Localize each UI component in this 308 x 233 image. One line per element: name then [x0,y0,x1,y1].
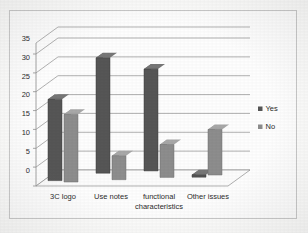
x-category-label-use-notes: Use notes [94,192,128,201]
x-category-label-functional: functional [143,192,175,201]
chart-legend: Yes No [258,104,278,131]
y-tick-label: 10 [22,128,30,137]
legend-swatch-no [258,125,263,130]
legend-label-no: No [266,122,276,131]
bar-chart-plot: 35 30 25 20 15 10 5 0 3C logo Use notes … [0,0,308,233]
y-tick-label: 0 [26,166,30,175]
y-axis-ticks [33,54,36,186]
chart-figure: 35 30 25 20 15 10 5 0 3C logo Use notes … [0,0,308,233]
x-category-label-functional-line2: characteristics [135,202,183,211]
y-tick-label: 20 [22,90,30,99]
x-axis-category-labels: 3C logo Use notes functional characteris… [50,192,229,211]
legend-swatch-yes [258,107,263,112]
y-tick-label: 30 [22,53,30,62]
y-tick-label: 25 [22,72,30,81]
legend-label-yes: Yes [266,104,278,113]
x-category-label-other-issues: Other issues [187,192,229,201]
y-tick-label: 15 [22,109,30,118]
y-axis-tick-labels: 35 30 25 20 15 10 5 0 [22,34,30,175]
y-tick-label: 35 [22,34,30,43]
y-tick-label: 5 [26,147,30,156]
x-category-label-3c-logo: 3C logo [50,192,76,201]
